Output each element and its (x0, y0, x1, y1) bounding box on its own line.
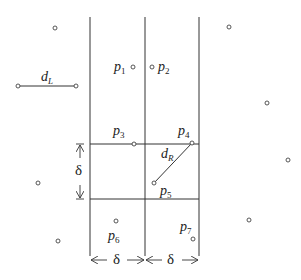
closest-pair-strip-diagram (0, 0, 301, 280)
point-dL-end (74, 84, 78, 88)
label-p7: p7 (180, 220, 192, 236)
point-p6 (114, 219, 118, 223)
point (247, 218, 251, 222)
point-p2 (150, 65, 154, 69)
point (286, 158, 290, 162)
point-p4 (190, 141, 194, 145)
label-p6: p6 (108, 229, 120, 245)
label-delta-vertical: δ (75, 163, 82, 178)
point-p5 (152, 181, 156, 185)
point-dL-start (16, 84, 20, 88)
label-p3: p3 (113, 124, 125, 140)
label-p4: p4 (178, 124, 190, 140)
point (227, 25, 231, 29)
point (265, 101, 269, 105)
point-p7 (191, 237, 195, 241)
label-dR: dR (161, 147, 174, 163)
label-p1: p1 (114, 60, 126, 76)
label-p5: p5 (160, 184, 172, 200)
point-p3 (132, 142, 136, 146)
label-dL: dL (41, 70, 53, 86)
label-delta-right: δ (167, 252, 174, 267)
point (53, 26, 57, 30)
point (56, 239, 60, 243)
label-delta-left: δ (113, 252, 120, 267)
point-p1 (131, 65, 135, 69)
label-p2: p2 (158, 60, 170, 76)
point (36, 181, 40, 185)
